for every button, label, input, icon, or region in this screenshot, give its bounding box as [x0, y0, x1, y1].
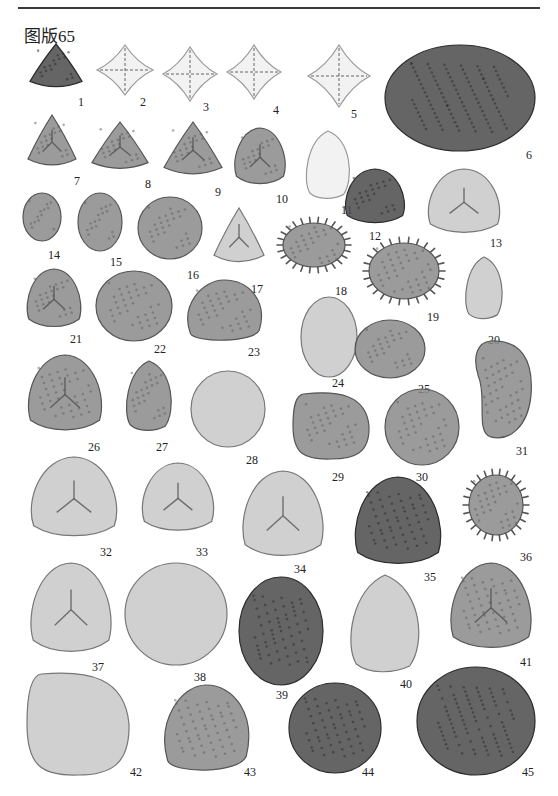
specimen-image: [307, 44, 371, 108]
specimen-figure-28: [190, 370, 266, 448]
specimen-figure-10: [232, 127, 288, 185]
specimen-figure-35: [350, 476, 446, 566]
specimen-image: [354, 319, 426, 379]
figure-number-label: 1: [78, 95, 84, 110]
specimen-image: [90, 120, 150, 172]
specimen-image: [226, 44, 282, 100]
specimen-figure-23: [182, 279, 266, 343]
specimen-image: [472, 340, 534, 442]
specimen-image: [22, 192, 62, 242]
specimen-figure-3: [162, 46, 218, 102]
specimen-figure-18: [276, 216, 352, 274]
figure-number-label: 19: [427, 310, 439, 325]
specimen-image: [190, 370, 266, 448]
specimen-figure-8: [90, 120, 150, 172]
specimen-image: [424, 168, 504, 234]
specimen-figure-34: [238, 470, 328, 558]
figure-number-label: 45: [522, 765, 534, 780]
figure-number-label: 21: [70, 332, 82, 347]
specimen-image: [162, 46, 218, 102]
specimen-image: [28, 42, 84, 90]
figure-number-label: 44: [362, 765, 374, 780]
specimen-figure-39: [238, 576, 324, 686]
specimen-figure-13: [424, 168, 504, 234]
figure-number-label: 33: [196, 545, 208, 560]
specimen-image: [182, 279, 266, 343]
header-rule: [18, 7, 540, 9]
specimen-figure-41: [446, 562, 536, 650]
figure-number-label: 8: [145, 177, 151, 192]
figure-number-label: 28: [246, 453, 258, 468]
figure-number-label: 3: [203, 100, 209, 115]
specimen-image: [416, 666, 536, 776]
figure-number-label: 7: [74, 174, 80, 189]
specimen-figure-42: [26, 672, 130, 776]
figure-number-label: 27: [156, 440, 168, 455]
specimen-image: [26, 672, 130, 776]
figure-number-label: 42: [130, 765, 142, 780]
figure-number-label: 23: [248, 345, 260, 360]
figure-number-label: 5: [351, 107, 357, 122]
running-header: [180, 0, 380, 4]
specimen-figure-29: [292, 392, 370, 460]
figure-number-label: 29: [332, 470, 344, 485]
specimen-figure-30: [384, 388, 460, 466]
specimen-figure-27: [122, 360, 176, 432]
specimen-image: [26, 562, 116, 654]
specimen-figure-45: [416, 666, 536, 776]
specimen-figure-2: [96, 44, 154, 96]
figure-number-label: 38: [194, 670, 206, 685]
specimen-image: [137, 196, 203, 260]
specimen-image: [384, 388, 460, 466]
specimen-figure-20: [462, 256, 506, 320]
specimen-image: [26, 113, 78, 169]
specimen-image: [238, 470, 328, 558]
specimen-figure-1: [28, 42, 84, 90]
specimen-image: [77, 192, 123, 252]
specimen-figure-25: [354, 319, 426, 379]
figure-number-label: 31: [516, 444, 528, 459]
specimen-image: [462, 468, 530, 542]
specimen-figure-21: [24, 268, 84, 328]
specimen-figure-31: [472, 340, 534, 442]
specimen-image: [24, 268, 84, 328]
specimen-figure-4: [226, 44, 282, 100]
specimen-figure-38: [124, 562, 228, 666]
specimen-figure-22: [95, 270, 173, 342]
specimen-image: [232, 127, 288, 185]
specimen-image: [95, 270, 173, 342]
specimen-image: [292, 392, 370, 460]
figure-number-label: 34: [294, 562, 306, 577]
specimen-figure-32: [26, 456, 122, 538]
specimen-figure-24: [300, 296, 358, 378]
figure-number-label: 39: [276, 688, 288, 703]
specimen-figure-40: [344, 574, 426, 674]
specimen-figure-9: [162, 120, 224, 178]
specimen-image: [300, 296, 358, 378]
specimen-image: [462, 256, 506, 320]
figure-number-label: 24: [332, 376, 344, 391]
specimen-figure-43: [158, 684, 254, 774]
specimen-image: [24, 354, 106, 432]
specimen-figure-17: [212, 206, 266, 266]
figure-number-label: 9: [215, 185, 221, 200]
figure-number-label: 14: [48, 248, 60, 263]
specimen-figure-15: [77, 192, 123, 252]
specimen-image: [212, 206, 266, 266]
specimen-image: [288, 682, 382, 774]
specimen-image: [158, 684, 254, 774]
figure-number-label: 6: [526, 148, 532, 163]
specimen-figure-7: [26, 113, 78, 169]
specimen-image: [162, 120, 224, 178]
specimen-image: [26, 456, 122, 538]
specimen-figure-5: [307, 44, 371, 108]
figure-number-label: 15: [110, 255, 122, 270]
specimen-figure-16: [137, 196, 203, 260]
figure-number-label: 4: [273, 103, 279, 118]
figure-number-label: 10: [276, 192, 288, 207]
figure-number-label: 43: [244, 765, 256, 780]
figure-number-label: 32: [100, 545, 112, 560]
specimen-figure-33: [138, 462, 218, 532]
specimen-image: [344, 574, 426, 674]
specimen-figure-36: [462, 468, 530, 542]
